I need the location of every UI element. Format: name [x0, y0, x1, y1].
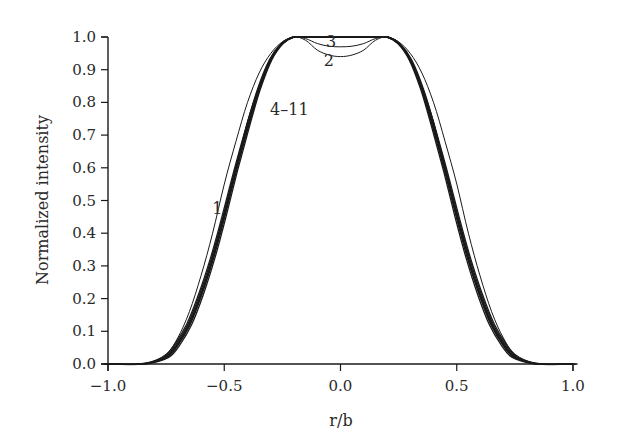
curve-label: 2	[324, 51, 334, 70]
curve-label: 3	[326, 32, 336, 51]
curve-label: 1	[212, 199, 222, 218]
y-tick-label: 0.1	[72, 322, 96, 340]
x-axis-ticks: −1.0−0.50.00.51.0	[90, 364, 585, 395]
y-tick-label: 0.4	[72, 224, 96, 242]
curve-3	[108, 37, 573, 365]
x-tick-label: −0.5	[206, 377, 242, 395]
y-tick-label: 0.2	[72, 290, 96, 308]
y-tick-label: 0.9	[72, 61, 96, 79]
x-tick-label: 0.5	[445, 377, 469, 395]
curve-4-11	[105, 37, 576, 365]
curve-label: 4–11	[270, 100, 309, 119]
curve-4-11	[108, 37, 573, 365]
y-tick-label: 0.3	[72, 257, 96, 275]
curve-4-11	[107, 37, 574, 365]
curve-1	[108, 37, 573, 365]
curve-4-11	[109, 37, 572, 365]
x-tick-label: 1.0	[561, 377, 585, 395]
curves	[103, 37, 577, 365]
curve-4-11	[112, 37, 570, 365]
x-tick-label: −1.0	[90, 377, 126, 395]
y-tick-label: 0.8	[72, 93, 96, 111]
y-tick-label: 0.6	[72, 159, 96, 177]
curve-2	[108, 37, 573, 365]
y-axis-ticks: 0.00.10.20.30.40.50.60.70.80.91.0	[72, 28, 108, 373]
x-tick-label: 0.0	[329, 377, 353, 395]
y-axis-title: Normalized intensity	[33, 115, 52, 285]
y-tick-label: 0.5	[72, 192, 96, 210]
y-tick-label: 0.0	[72, 355, 96, 373]
y-tick-label: 0.7	[72, 126, 96, 144]
axes	[101, 37, 573, 371]
y-tick-label: 1.0	[72, 28, 96, 46]
curve-4-11	[103, 37, 577, 365]
chart: 0.00.10.20.30.40.50.60.70.80.91.0 −1.0−0…	[0, 0, 619, 447]
x-axis-title: r/b	[329, 411, 352, 430]
